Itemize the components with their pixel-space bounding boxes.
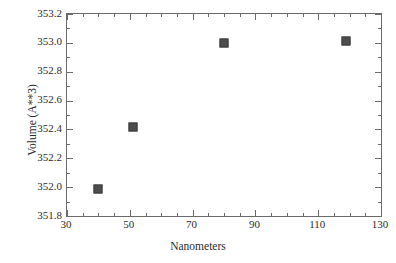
y-axis-tick-major xyxy=(67,101,73,102)
y-axis-tick-minor xyxy=(67,202,70,203)
data-point-marker xyxy=(220,38,229,47)
x-axis-tick-top-major xyxy=(193,14,194,20)
x-axis-tick-minor xyxy=(224,213,225,216)
x-axis-tick-label: 30 xyxy=(61,218,72,230)
y-axis-tick-label: 353.0 xyxy=(37,36,62,47)
x-axis-tick-top-major xyxy=(381,14,382,20)
x-axis-tick-label: 90 xyxy=(249,218,260,230)
x-axis-tick-top-minor xyxy=(334,14,335,17)
x-axis-tick-minor xyxy=(271,213,272,216)
y-axis-tick-minor xyxy=(67,57,70,58)
x-axis-tick-top-minor xyxy=(287,14,288,17)
y-axis-tick-major xyxy=(67,187,73,188)
y-axis-tick-major xyxy=(67,43,73,44)
y-axis-tick-right-minor xyxy=(378,173,381,174)
y-axis-tick-right-major xyxy=(375,72,381,73)
y-axis-tick-label: 352.8 xyxy=(37,65,62,76)
y-axis-tick-right-major xyxy=(375,43,381,44)
y-axis-tick-right-minor xyxy=(378,86,381,87)
y-axis-tick-minor xyxy=(67,115,70,116)
x-axis-tick-major xyxy=(130,210,131,216)
x-axis-tick-minor xyxy=(365,213,366,216)
data-point-marker xyxy=(342,37,351,46)
y-axis-tick-major xyxy=(67,129,73,130)
x-axis-tick-minor xyxy=(177,213,178,216)
y-axis-tick-right-minor xyxy=(378,144,381,145)
x-axis-tick-minor xyxy=(334,213,335,216)
y-axis-tick-right-minor xyxy=(378,115,381,116)
y-axis-tick-label: 352.4 xyxy=(37,123,62,134)
x-axis-tick-top-minor xyxy=(208,14,209,17)
y-axis-tick-right-major xyxy=(375,187,381,188)
y-axis-tick-right-minor xyxy=(378,28,381,29)
y-axis-tick-major xyxy=(67,216,73,217)
x-axis-tick-minor xyxy=(208,213,209,216)
x-axis-tick-top-major xyxy=(255,14,256,20)
y-axis-tick-label: 352.2 xyxy=(37,152,62,163)
y-axis-tick-right-major xyxy=(375,129,381,130)
scatter-plot-figure: Volume (A**3) Nanometers 351.8352.0352.2… xyxy=(0,0,396,263)
x-axis-tick-minor xyxy=(146,213,147,216)
x-axis-tick-label: 70 xyxy=(186,218,197,230)
x-axis-tick-minor xyxy=(303,213,304,216)
x-axis-tick-top-minor xyxy=(98,14,99,17)
x-axis-tick-minor xyxy=(161,213,162,216)
x-axis-tick-top-minor xyxy=(365,14,366,17)
x-axis-tick-minor xyxy=(287,213,288,216)
y-axis-tick-right-major xyxy=(375,216,381,217)
plot-area xyxy=(66,13,382,217)
y-axis-tick-label: 352.6 xyxy=(37,94,62,105)
x-axis-tick-top-minor xyxy=(271,14,272,17)
y-axis-tick-right-major xyxy=(375,158,381,159)
x-axis-tick-label: 50 xyxy=(123,218,134,230)
y-axis-tick-label: 352.0 xyxy=(37,181,62,192)
y-axis-tick-minor xyxy=(67,28,70,29)
x-axis-tick-top-minor xyxy=(83,14,84,17)
y-axis-title: Volume (A**3) xyxy=(26,50,38,190)
y-axis-tick-label: 353.2 xyxy=(37,8,62,19)
data-point-marker xyxy=(128,122,137,131)
x-axis-tick-top-minor xyxy=(177,14,178,17)
y-axis-tick-major xyxy=(67,72,73,73)
x-axis-tick-major xyxy=(67,210,68,216)
x-axis-tick-top-minor xyxy=(350,14,351,17)
x-axis-tick-minor xyxy=(350,213,351,216)
x-axis-tick-top-major xyxy=(130,14,131,20)
x-axis-tick-top-major xyxy=(67,14,68,20)
y-axis-tick-major xyxy=(67,158,73,159)
x-axis-tick-top-minor xyxy=(161,14,162,17)
x-axis-tick-major xyxy=(193,210,194,216)
y-axis-tick-right-major xyxy=(375,101,381,102)
y-axis-tick-label: 351.8 xyxy=(37,210,62,221)
x-axis-tick-label: 110 xyxy=(309,218,325,230)
x-axis-tick-label: 130 xyxy=(372,218,389,230)
x-axis-tick-top-minor xyxy=(303,14,304,17)
x-axis-tick-minor xyxy=(83,213,84,216)
y-axis-tick-minor xyxy=(67,86,70,87)
x-axis-title: Nanometers xyxy=(0,240,396,252)
x-axis-tick-top-minor xyxy=(224,14,225,17)
x-axis-tick-minor xyxy=(114,213,115,216)
y-axis-tick-minor xyxy=(67,144,70,145)
x-axis-tick-major xyxy=(381,210,382,216)
y-axis-tick-right-minor xyxy=(378,57,381,58)
x-axis-tick-top-minor xyxy=(240,14,241,17)
x-axis-tick-minor xyxy=(240,213,241,216)
y-axis-tick-minor xyxy=(67,173,70,174)
x-axis-tick-minor xyxy=(98,213,99,216)
data-point-marker xyxy=(94,184,103,193)
x-axis-tick-top-minor xyxy=(146,14,147,17)
x-axis-tick-top-minor xyxy=(114,14,115,17)
x-axis-tick-major xyxy=(318,210,319,216)
x-axis-tick-top-major xyxy=(318,14,319,20)
x-axis-tick-major xyxy=(255,210,256,216)
y-axis-tick-right-minor xyxy=(378,202,381,203)
